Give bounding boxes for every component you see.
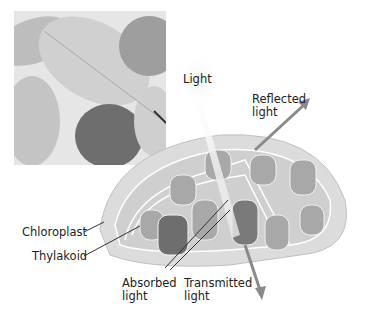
light-label: Light	[183, 73, 212, 86]
absorbed-light-label: Absorbed light	[122, 277, 177, 303]
reflected-light-label: Reflected light	[252, 93, 306, 119]
transmitted-light-label: Transmitted light	[184, 277, 252, 303]
chloroplast-label: Chloroplast	[22, 226, 87, 239]
chloroplast-diagram	[0, 0, 367, 313]
thylakoid-label: Thylakoid	[32, 250, 87, 263]
